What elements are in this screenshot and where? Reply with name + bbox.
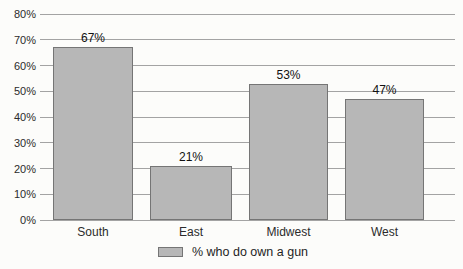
x-category-label: West [335,225,434,239]
bar-value-label: 67% [53,32,133,45]
bar-value-label: 21% [150,151,232,164]
plot-area: 67%21%53%47% [40,14,455,220]
y-tick-label: 10% [0,188,36,200]
bar-chart-figure: 67%21%53%47% 0%10%20%30%40%50%60%70%80% … [0,0,463,269]
bar-east [150,166,232,220]
y-tick-label: 60% [0,60,36,72]
y-tick-label: 80% [0,8,36,20]
bar-midwest [249,84,328,220]
x-category-label: East [140,225,242,239]
bar-west [345,99,424,220]
y-tick-label: 70% [0,34,36,46]
bar-value-label: 47% [345,84,424,97]
x-category-label: Midwest [239,225,338,239]
y-tick-label: 0% [0,214,36,226]
gridline [40,14,455,15]
legend-label: % who do own a gun [192,245,308,259]
y-tick-label: 30% [0,137,36,149]
y-tick-label: 20% [0,163,36,175]
y-tick-label: 50% [0,85,36,97]
x-category-label: South [43,225,143,239]
y-tick-label: 40% [0,111,36,123]
bar-south [53,47,133,220]
legend-swatch-icon [158,247,183,257]
legend: % who do own a gun [158,245,308,259]
bar-value-label: 53% [249,69,328,82]
